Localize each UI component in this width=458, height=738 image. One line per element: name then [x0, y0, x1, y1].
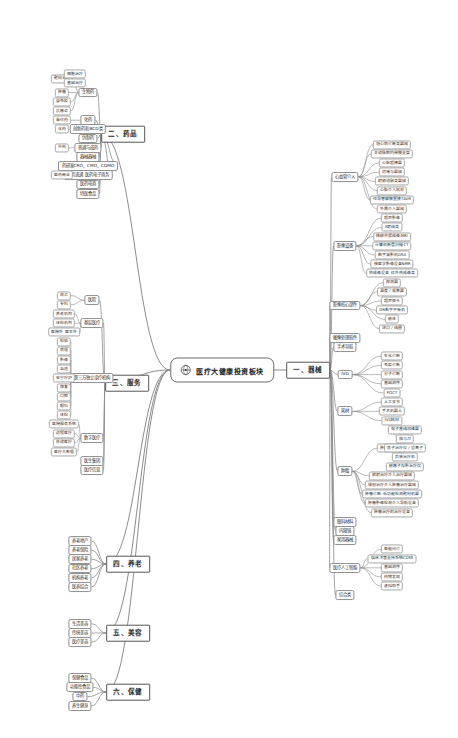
node-devices-2-3[interactable]: DR数字平板机 — [376, 306, 408, 315]
node-devices-1-2[interactable]: 核磁共振成像MRI — [373, 232, 411, 241]
node-devices-2[interactable]: 影像核心部件 — [329, 301, 360, 311]
node-devices-6-2[interactable]: IVD耗材 — [381, 416, 402, 425]
node-devices-7-2[interactable]: 微创治疗介入肿瘤治疗器械 — [365, 480, 419, 489]
node-devices-7-0-2[interactable]: 质子治疗仪 / 重离子 — [384, 444, 426, 453]
node-services-2-7[interactable]: 眼科 — [57, 401, 71, 410]
node-services-1[interactable]: 基层医疗 — [80, 318, 103, 328]
node-devices-6[interactable]: 耗材 — [337, 406, 352, 416]
node-devices-5-2[interactable]: 分子诊断 — [381, 370, 403, 379]
node-devices-1[interactable]: 影像设备 — [333, 241, 356, 251]
node-services-2-1[interactable]: 病理 — [57, 346, 71, 355]
node-devices-7[interactable]: 肿瘤 — [337, 466, 352, 476]
node-devices-10[interactable]: 家用器械 — [333, 535, 356, 545]
node-label: 创新药和BCD类 — [73, 126, 102, 131]
node-services-2-4[interactable]: 安宁疗护 — [53, 374, 75, 383]
node-pharma-0-0-0[interactable]: 细胞治疗 — [64, 70, 86, 79]
node-devices-1-0[interactable]: 超声影像 — [381, 214, 403, 223]
branch-node-elderly[interactable]: 四、养老 — [106, 556, 150, 573]
branch-node-health[interactable]: 六、保健 — [106, 684, 150, 701]
root-node[interactable]: 医疗大健康投资板块 — [170, 358, 274, 383]
node-devices-11-2[interactable]: 基因测序 — [381, 563, 403, 572]
node-pharma-9[interactable]: 特医食品 — [76, 189, 99, 199]
node-devices-5-3[interactable]: 基因测序 — [381, 379, 403, 388]
node-devices-5-1[interactable]: 免疫诊断 — [381, 361, 403, 370]
node-devices-6-1[interactable]: 手术机器人 — [379, 407, 405, 416]
node-devices-4[interactable]: 手术导航 — [333, 342, 356, 352]
node-services-3[interactable]: 数字医疗 — [80, 433, 103, 443]
branch-node-devices[interactable]: 一、器械 — [286, 362, 330, 379]
node-devices-1-3[interactable]: 计算机断层扫描CT — [372, 241, 411, 250]
node-services-3-2[interactable]: 移动医疗 — [53, 438, 75, 447]
node-services-1-2[interactable]: 医院外 医生外 — [48, 328, 80, 337]
node-services-3-3[interactable]: 医疗大数据 — [51, 447, 77, 456]
node-services-1-0[interactable]: 养老机构 — [53, 309, 75, 318]
node-pharma-4-0[interactable]: 中药 — [55, 143, 69, 152]
node-services-2-2[interactable]: 影像 — [57, 355, 71, 364]
node-devices-2-5[interactable]: 进口 / 线圈 — [379, 324, 405, 333]
node-devices-0-1[interactable]: 主动脉腔内带膜支架 — [371, 149, 413, 158]
node-devices-12[interactable]: 综合类 — [335, 590, 354, 600]
node-services-1-1[interactable]: 体检机构 — [53, 319, 75, 328]
node-services-0[interactable]: 医院 — [84, 295, 99, 305]
node-pharma-0-0-1[interactable]: 基因治疗 — [64, 79, 86, 88]
node-services-2-3[interactable]: 血透 — [57, 365, 71, 374]
node-pharma-0-1[interactable]: 肿瘤 — [55, 88, 69, 97]
node-devices-7-5[interactable]: 肿瘤治疗的治疗设备 — [371, 508, 413, 517]
node-services-5[interactable]: 医疗信息 — [80, 465, 103, 475]
node-services-2-6[interactable]: 口腔 — [57, 392, 71, 401]
node-devices-0-4[interactable]: 射频消融类器械 — [375, 177, 409, 186]
node-beauty-2[interactable]: 医疗美容 — [68, 637, 91, 647]
node-devices-11-4[interactable]: 虚拟助手 — [381, 582, 403, 591]
node-devices-11-1[interactable]: 临床决策支持系统CDSS — [367, 554, 416, 563]
node-pharma-1-0[interactable]: 首仿药 — [53, 116, 71, 125]
node-services-2-8[interactable]: 体检 — [57, 411, 71, 420]
node-devices-2-1[interactable]: 温度 / 采集器 — [377, 287, 407, 296]
node-devices-6-0[interactable]: 人工关节 — [381, 398, 403, 407]
node-services-0-1[interactable]: 专科 — [57, 300, 71, 309]
node-devices-1-1[interactable]: X射线类 — [381, 223, 402, 232]
node-pharma-0[interactable]: 生物药 — [78, 88, 97, 98]
node-label: 四、养老 — [113, 560, 143, 568]
node-devices-0[interactable]: 心血管介入 — [331, 172, 358, 182]
node-pharma-2-0[interactable]: 化药 — [55, 125, 69, 134]
node-devices-5-0[interactable]: 生化诊断 — [381, 352, 403, 361]
node-devices-0-3[interactable]: 封堵与器械 — [379, 168, 405, 177]
node-devices-0-0[interactable]: 冠心病诊断类器械 — [373, 140, 411, 149]
node-services-0-0[interactable]: 综合 — [57, 291, 71, 300]
node-devices-0-5[interactable]: 心脏介入耗材 — [377, 186, 407, 195]
node-services-3-1[interactable]: 远程医疗 — [53, 429, 75, 438]
node-devices-2-2[interactable]: 超声探头 — [381, 296, 403, 305]
node-devices-1-5[interactable]: 核医学影像设备NMR — [370, 260, 413, 269]
node-devices-0-7[interactable]: 外周介入器械 — [377, 204, 407, 213]
branch-node-pharma[interactable]: 二、药品 — [101, 126, 145, 143]
node-label: 安宁疗护 — [56, 375, 72, 380]
node-devices-0-2[interactable]: 心脏起搏器 — [379, 158, 405, 167]
node-devices-2-0[interactable]: 探测器 — [383, 278, 401, 287]
node-devices-7-1[interactable]: 放射治疗介入治疗器械 — [369, 471, 415, 480]
node-pharma-0-3[interactable]: 抗感染 — [53, 106, 71, 115]
node-devices-11-3[interactable]: 药物发现 — [381, 572, 403, 581]
node-devices-7-0-3[interactable]: 后装治疗机 — [392, 453, 418, 462]
node-services-2[interactable]: 第三方独立诊疗机构 — [70, 373, 113, 383]
node-devices-7-3[interactable]: 肿瘤诊断:低功能检测靶材机器 — [362, 490, 422, 499]
node-devices-11-0[interactable]: 智能问诊 — [381, 545, 403, 554]
node-services-2-0[interactable]: 检验 — [57, 337, 71, 346]
node-devices-11[interactable]: 医疗人工智能 — [329, 563, 360, 573]
branch-node-beauty[interactable]: 五、美容 — [106, 625, 150, 642]
node-health-3[interactable]: 养生健身 — [68, 701, 91, 711]
node-pharma-7-0[interactable]: 医药商业 — [51, 171, 73, 180]
node-devices-7-4[interactable]: 肿瘤影像检测介入导航设备 — [365, 499, 419, 508]
node-services-3-0[interactable]: 医院服务系统 — [49, 420, 79, 429]
node-devices-2-4[interactable]: 磁体 — [385, 315, 399, 324]
node-devices-7-0-0[interactable]: 电子直线加速器 — [388, 425, 422, 434]
node-devices-1-6[interactable]: 热成像设备 红外热成像类 — [366, 269, 418, 278]
node-pharma-0-2[interactable]: 自免疫 — [53, 97, 71, 106]
node-devices-0-6[interactable]: 经导管瓣膜置换TAVR — [370, 195, 414, 204]
node-devices-5-4[interactable]: POCT — [384, 388, 401, 397]
node-devices-1-4[interactable]: 数字减影机DSA — [375, 250, 410, 259]
node-devices-7-0-1[interactable]: 伽马刀 — [396, 434, 414, 443]
node-devices-7-0-4[interactable]: 磁感子存影治疗仪 — [386, 462, 424, 471]
node-elderly-5[interactable]: 医养结合 — [68, 582, 91, 592]
node-devices-5[interactable]: IVD — [338, 370, 353, 380]
node-services-2-5[interactable]: 康复 — [57, 383, 71, 392]
